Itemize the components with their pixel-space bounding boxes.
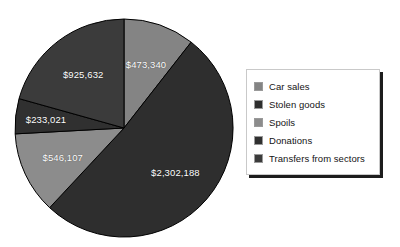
legend-item-donations: Donations — [254, 131, 373, 149]
legend-item-spoils: Spoils — [254, 113, 373, 131]
pie-svg — [0, 0, 250, 247]
legend-item-transfers-from-sectors: Transfers from sectors — [254, 149, 373, 167]
legend-label-donations: Donations — [269, 135, 312, 146]
legend-label-stolen-goods: Stolen goods — [269, 99, 325, 110]
legend-item-stolen-goods: Stolen goods — [254, 95, 373, 113]
legend-item-car-sales: Car sales — [254, 77, 373, 95]
legend-label-spoils: Spoils — [269, 117, 295, 128]
legend-swatch-car-sales — [254, 82, 263, 91]
pie-chart-figure: $473,340 $2,302,188 $546,107 $233,021 $9… — [0, 0, 400, 247]
pie-plot-area: $473,340 $2,302,188 $546,107 $233,021 $9… — [0, 0, 250, 247]
legend-swatch-spoils — [254, 118, 263, 127]
legend-label-transfers-from-sectors: Transfers from sectors — [269, 153, 365, 164]
legend-label-car-sales: Car sales — [269, 81, 310, 92]
legend-swatch-donations — [254, 136, 263, 145]
legend-swatch-transfers-from-sectors — [254, 154, 263, 163]
chart-legend: Car sales Stolen goods Spoils Donations … — [246, 69, 380, 175]
legend-swatch-stolen-goods — [254, 100, 263, 109]
